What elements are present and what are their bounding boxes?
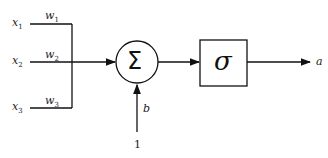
summation-symbol: Σ (127, 49, 142, 73)
weight-w2: w2 (45, 49, 59, 63)
weight-w3: w3 (45, 95, 59, 109)
bias-label: b (143, 103, 150, 114)
input-x1: x1 (12, 17, 23, 31)
input-x3: x3 (12, 101, 23, 115)
output-label: a (316, 56, 323, 67)
input-x2: x2 (12, 55, 23, 69)
sigma-activation-symbol: σ (214, 48, 232, 74)
weight-w1: w1 (45, 10, 59, 24)
bias-input-label: 1 (134, 139, 141, 150)
